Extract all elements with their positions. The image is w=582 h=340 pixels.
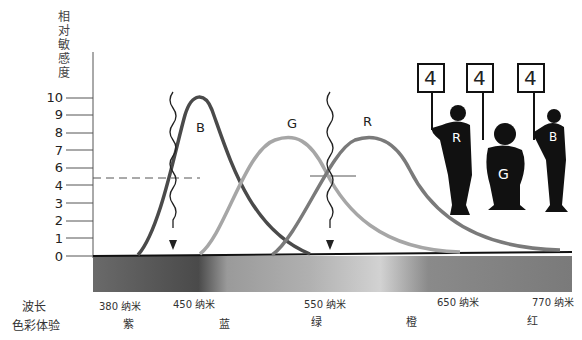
wavelength-label: 650 纳米 [437, 294, 479, 309]
color-experience-label: 绿 [311, 313, 322, 329]
y-tick-lines [66, 98, 93, 256]
x-axis-line [93, 252, 572, 256]
wavelength-label: 770 纳米 [532, 294, 574, 309]
sign-number: 4 [473, 66, 486, 90]
figure-letter-r: R [452, 130, 461, 145]
wavelength-label: 550 纳米 [304, 296, 346, 311]
wavelength-label: 450 纳米 [173, 296, 215, 311]
light-wave-arrow-green [327, 92, 333, 228]
color-experience-label: 紫 [123, 315, 134, 331]
curve-label-r: R [363, 114, 372, 129]
figure-letter-b: B [549, 130, 557, 144]
spectrum-bar [93, 256, 572, 292]
sign-number: 4 [524, 66, 537, 90]
blue-cone-curve [138, 97, 310, 255]
sign-number: 4 [424, 66, 437, 90]
curve-label-g: G [287, 116, 297, 131]
curve-label-b: B [196, 120, 205, 135]
wavelength-label: 380 纳米 [99, 298, 141, 313]
color-experience-label: 红 [527, 312, 538, 328]
color-experience-row-label: 色彩体验 [12, 316, 60, 333]
figure-letter-g: G [498, 166, 509, 182]
arrow-head-icon [326, 240, 334, 250]
color-experience-label: 橙 [406, 313, 417, 329]
wavelength-row-label: 波长 [22, 297, 46, 314]
arrow-head-icon [169, 240, 177, 250]
sensitivity-chart [0, 0, 582, 340]
color-experience-label: 蓝 [219, 315, 230, 331]
cartoon-silhouettes [432, 105, 568, 215]
